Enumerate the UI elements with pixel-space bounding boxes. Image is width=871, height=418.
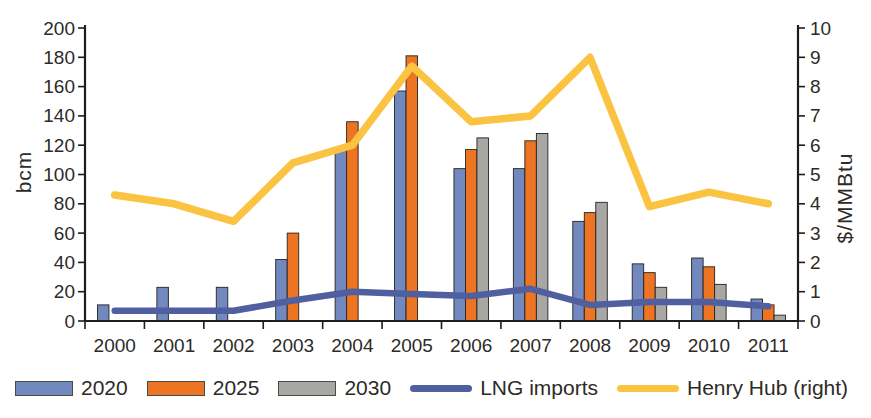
legend-swatch-icon	[147, 381, 205, 396]
legend-item-2030: 2030	[278, 376, 391, 400]
legend-line-swatch-icon	[410, 385, 472, 392]
legend-label: Henry Hub (right)	[687, 376, 848, 400]
x-axis-label: 2007	[509, 335, 551, 356]
bar-2020-2001	[157, 287, 169, 321]
right-axis-title: $/MMBtu	[833, 152, 857, 243]
right-axis-tick-label: 3	[810, 223, 821, 244]
legend-label: 2030	[344, 376, 391, 400]
line-lng-imports	[115, 289, 769, 311]
left-axis-tick-label: 200	[43, 18, 75, 39]
x-axis-label: 2008	[569, 335, 611, 356]
bar-2025-2009	[644, 273, 656, 321]
right-axis-tick-label: 6	[810, 135, 821, 156]
right-axis-tick-label: 4	[810, 193, 821, 214]
x-axis-label: 2011	[748, 335, 789, 356]
legend-item-henry-hub-right: Henry Hub (right)	[617, 376, 848, 400]
left-axis-tick-label: 40	[54, 252, 75, 273]
x-axis-label: 2005	[391, 335, 433, 356]
right-axis-tick-label: 8	[810, 76, 821, 97]
legend-swatch-icon	[278, 381, 336, 396]
left-axis-title: bcm	[12, 151, 36, 194]
bar-2025-2005	[406, 56, 418, 321]
right-axis-tick-label: 1	[810, 281, 821, 302]
x-axis-label: 2010	[688, 335, 730, 356]
left-axis-tick-label: 120	[43, 135, 75, 156]
bar-2025-2007	[525, 141, 537, 321]
bar-2025-2010	[703, 267, 715, 321]
legend-item-lng-imports: LNG imports	[410, 376, 598, 400]
x-axis-label: 2004	[331, 335, 374, 356]
bar-2020-2003	[276, 259, 288, 321]
legend-item-2020: 2020	[15, 376, 128, 400]
bar-2025-2003	[287, 233, 299, 321]
chart-legend: 202020252030LNG importsHenry Hub (right)	[15, 376, 848, 400]
line-henry-hub-right	[115, 57, 769, 221]
bar-2020-2005	[395, 91, 407, 321]
right-axis-tick-label: 7	[810, 105, 821, 126]
right-axis-tick-label: 10	[810, 18, 831, 39]
x-axis-label: 2006	[450, 335, 492, 356]
left-axis-tick-label: 100	[43, 164, 75, 185]
legend-line-swatch-icon	[617, 385, 679, 392]
right-axis-tick-label: 9	[810, 47, 821, 68]
legend-label: LNG imports	[480, 376, 598, 400]
axis-frame	[85, 25, 798, 321]
x-axis-label: 2000	[94, 335, 136, 356]
x-axis-label: 2001	[153, 335, 195, 356]
bar-2020-2010	[692, 258, 704, 321]
legend-label: 2025	[213, 376, 260, 400]
left-axis-tick-label: 80	[54, 193, 75, 214]
left-axis-tick-label: 140	[43, 105, 75, 126]
right-axis-tick-label: 5	[810, 164, 821, 185]
right-axis-tick-label: 2	[810, 252, 821, 273]
right-axis-tick-label: 0	[810, 311, 821, 332]
legend-swatch-icon	[15, 381, 73, 396]
left-axis-tick-label: 160	[43, 76, 75, 97]
left-axis-tick-label: 60	[54, 223, 75, 244]
left-axis-tick-label: 20	[54, 281, 75, 302]
x-axis-label: 2009	[628, 335, 670, 356]
bar-2020-2000	[97, 305, 109, 321]
bar-2020-2007	[513, 169, 525, 321]
left-axis-tick-label: 0	[64, 311, 75, 332]
x-axis-label: 2003	[272, 335, 314, 356]
legend-item-2025: 2025	[147, 376, 260, 400]
x-axis-label: 2002	[212, 335, 254, 356]
bar-2020-2009	[632, 264, 644, 321]
left-axis-tick-label: 180	[43, 47, 75, 68]
plot-area: 0204060801001201401601802000123456789102…	[0, 0, 871, 418]
combo-chart-figure: 0204060801001201401601802000123456789102…	[0, 0, 871, 418]
bar-2020-2002	[216, 287, 228, 321]
legend-label: 2020	[81, 376, 128, 400]
